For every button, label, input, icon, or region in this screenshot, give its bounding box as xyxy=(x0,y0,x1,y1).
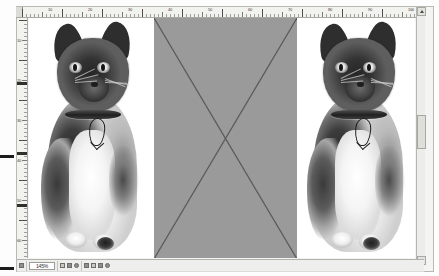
ruler-tick xyxy=(298,14,299,17)
ruler-tick xyxy=(106,14,107,17)
ruler-tick xyxy=(19,60,27,61)
vertical-scrollbar[interactable] xyxy=(416,7,425,265)
ruler-tick xyxy=(126,14,127,17)
ruler-tick xyxy=(322,12,323,17)
ruler-tick xyxy=(58,14,59,17)
zoom-input[interactable]: 145% xyxy=(29,262,55,270)
ruler-tick xyxy=(326,14,327,17)
ruler-tick xyxy=(24,252,27,253)
kitten-pupil-left xyxy=(339,64,343,71)
ruler-tick xyxy=(22,40,27,41)
ruler-tick xyxy=(34,14,35,17)
layout-icon[interactable] xyxy=(60,263,65,268)
page-icon xyxy=(19,263,24,268)
ruler-tick xyxy=(402,12,403,17)
ruler-tick xyxy=(218,14,219,17)
ruler-tick xyxy=(258,14,259,17)
kitten-pupil-right xyxy=(101,64,105,71)
ruler-tick xyxy=(24,228,27,229)
ruler-label: 20 xyxy=(88,7,92,12)
horizontal-ruler[interactable]: 102030405060708090100 xyxy=(16,7,424,18)
zoom-cell[interactable]: 145% xyxy=(27,261,58,271)
ruler-tick xyxy=(398,14,399,17)
ruler-tick xyxy=(334,14,335,17)
ruler-label: 10 xyxy=(17,38,21,43)
ruler-tick xyxy=(24,144,27,145)
ruler-tick xyxy=(24,244,27,245)
ruler-tick xyxy=(24,256,27,257)
ruler-tick xyxy=(22,80,27,81)
ruler-guide-marker[interactable] xyxy=(17,152,28,155)
ruler-tick xyxy=(194,14,195,17)
ruler-tick xyxy=(278,14,279,17)
ruler-tick xyxy=(24,188,27,189)
text-icon[interactable] xyxy=(91,263,96,268)
ruler-tick xyxy=(342,9,343,17)
rotate-icon[interactable] xyxy=(105,263,110,268)
ruler-tick xyxy=(24,168,27,169)
ruler-tick xyxy=(24,196,27,197)
ruler-tick xyxy=(310,14,311,17)
image-frame-right[interactable] xyxy=(301,18,414,258)
ruler-tick xyxy=(114,14,115,17)
single-page-icon[interactable] xyxy=(74,263,79,268)
ruler-tick xyxy=(158,14,159,17)
ruler-tick xyxy=(24,248,27,249)
ruler-tick xyxy=(24,52,27,53)
ruler-label: 80 xyxy=(328,7,332,12)
ruler-label: 60 xyxy=(17,238,21,243)
ruler-tick xyxy=(362,12,363,17)
horizontal-scrollbar[interactable] xyxy=(17,271,424,272)
ruler-tick xyxy=(314,14,315,17)
ruler-tick xyxy=(302,9,303,17)
ruler-tick xyxy=(24,176,27,177)
ruler-tick xyxy=(24,216,27,217)
ruler-guide-marker[interactable] xyxy=(17,82,28,85)
fish-tag-icon xyxy=(88,117,106,146)
ruler-tick xyxy=(50,14,51,17)
ruler-tick xyxy=(24,68,27,69)
kitten-collar xyxy=(65,110,121,119)
ruler-tick xyxy=(110,14,111,17)
ruler-tick xyxy=(90,14,91,17)
document-canvas[interactable] xyxy=(29,18,415,258)
ruler-tick xyxy=(230,14,231,17)
ruler-tick xyxy=(142,9,143,17)
frame-icon[interactable] xyxy=(98,263,103,268)
view-mode-cell[interactable] xyxy=(58,261,82,271)
columns-icon[interactable] xyxy=(67,263,72,268)
object-tools-cell[interactable] xyxy=(82,261,424,271)
ruler-tick xyxy=(24,108,27,109)
ruler-tick xyxy=(24,56,27,57)
kitten-collar xyxy=(331,110,387,119)
ruler-tick xyxy=(270,14,271,17)
zoom-value: 145% xyxy=(36,263,48,269)
ruler-tick xyxy=(306,14,307,17)
ruler-tick xyxy=(382,9,383,17)
image-frame-placeholder[interactable] xyxy=(154,18,297,258)
page-indicator-cell[interactable] xyxy=(17,261,27,271)
kitten-photo xyxy=(35,18,148,258)
ruler-tick xyxy=(174,14,175,17)
scrollbar-thumb[interactable] xyxy=(417,115,426,149)
image-frame-left[interactable] xyxy=(35,18,148,258)
ruler-guide-marker[interactable] xyxy=(17,204,28,207)
vertical-ruler[interactable]: 102030405060 xyxy=(17,18,28,258)
kitten-pupil-right xyxy=(367,64,371,71)
ruler-tick xyxy=(406,14,407,17)
ruler-tick xyxy=(22,120,27,121)
select-icon[interactable] xyxy=(84,263,89,268)
ruler-tick xyxy=(366,14,367,17)
ruler-tick xyxy=(42,12,43,17)
ruler-tick xyxy=(22,200,27,201)
ruler-tick xyxy=(410,14,411,17)
ruler-tick xyxy=(210,14,211,17)
ruler-label: 90 xyxy=(368,7,372,12)
application-window: 102030405060708090100 102030405060 xyxy=(0,0,439,276)
ruler-tick xyxy=(346,14,347,17)
ruler-tick xyxy=(24,116,27,117)
ruler-tick xyxy=(226,14,227,17)
ruler-tick xyxy=(24,24,27,25)
scroll-up-button[interactable] xyxy=(417,7,426,16)
ruler-tick xyxy=(46,14,47,17)
